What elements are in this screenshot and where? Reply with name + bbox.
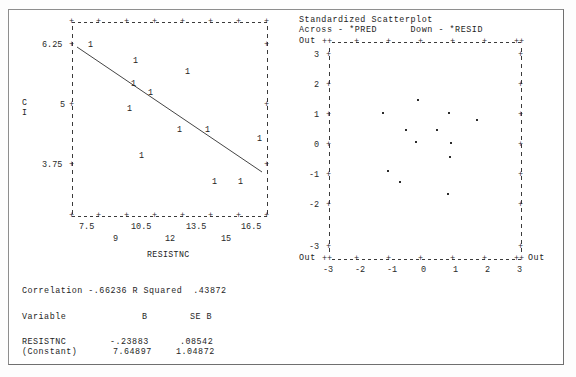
- right-plot-y-tick-label-1: 1: [314, 111, 319, 119]
- right-plot-bottom-tick-t2: +: [386, 255, 391, 263]
- right-plot-bottom-tick-t5: +: [482, 255, 487, 263]
- table-row: 7.64897: [113, 347, 152, 357]
- right-plot-x-tick-label-neg2: -2: [355, 266, 365, 274]
- left-scatterplot: + + + + + + + + + + + + + + + + 6.25 + 5…: [0, 0, 290, 270]
- table-header-variable: Variable: [22, 312, 66, 322]
- right-plot-bottom-tick-t1: +: [354, 255, 359, 263]
- residual-point: [382, 112, 384, 114]
- right-plot-y-tick-mark-3: +: [326, 51, 331, 59]
- right-plot-y-tick-label-3: 3: [314, 51, 319, 59]
- right-plot-bottom-axis: [332, 259, 521, 260]
- residual-point: [449, 156, 451, 158]
- right-plot-top-tick-t3: +: [418, 38, 423, 46]
- residual-point: [436, 129, 438, 131]
- residual-point: [387, 170, 389, 172]
- right-plot-y-tick-label-0: 0: [314, 141, 319, 149]
- right-plot-y-tick-right-3: +: [518, 51, 523, 59]
- correlation-line: Correlation -.66236 R Squared .43872: [22, 286, 226, 296]
- data-point-marker: 1: [185, 68, 190, 76]
- data-point-marker: 1: [139, 152, 144, 160]
- data-point-marker: 1: [257, 135, 262, 143]
- right-plot-top-axis: [332, 42, 521, 43]
- table-row: RESISTNC: [22, 337, 66, 347]
- residual-point: [405, 129, 407, 131]
- data-point-marker: 1: [212, 178, 217, 186]
- right-plot-y-tick-mark-neg1: +: [326, 171, 331, 179]
- right-plot-y-tick-label-neg3: -3: [309, 243, 319, 251]
- right-plot-top-tick-t2: +: [386, 38, 391, 46]
- right-plot-x-tick-label-neg1: -1: [387, 266, 397, 274]
- right-plot-top-tick-t4: +: [450, 38, 455, 46]
- right-plot-x-tick-label-neg3: -3: [323, 266, 333, 274]
- right-plot-y-tick-mark-0: +: [326, 141, 331, 149]
- right-plot-out-label-bottom-left: Out: [299, 254, 316, 264]
- right-plot-y-tick-right-neg2: +: [518, 201, 523, 209]
- right-plot-y-axis: [329, 48, 330, 252]
- right-plot-y-tick-label-neg2: -2: [309, 201, 319, 209]
- data-point-marker: 1: [133, 57, 138, 65]
- right-plot-x-tick-label-2: 2: [485, 266, 490, 274]
- data-point-marker: 1: [127, 105, 132, 113]
- table-row: (Constant): [22, 347, 77, 357]
- right-plot-y-tick-right-0: +: [518, 141, 523, 149]
- right-plot-y-tick-label-neg1: -1: [309, 171, 319, 179]
- right-plot-top-corner-tick-right: +: [519, 38, 524, 46]
- right-plot-y-tick-mark-2: +: [326, 81, 331, 89]
- data-point-marker: 1: [148, 89, 153, 97]
- data-point-marker: 1: [131, 80, 136, 88]
- right-plot-bottom-tick-t4: +: [450, 255, 455, 263]
- right-plot-top-tick-t5: +: [482, 38, 487, 46]
- right-plot-y-tick-right-1: +: [518, 111, 523, 119]
- table-row: -.23883: [110, 337, 149, 347]
- residual-point: [399, 181, 401, 183]
- right-plot-y-tick-mark-1: +: [326, 111, 331, 119]
- right-plot-bottom-tick-t3: +: [418, 255, 423, 263]
- data-point-marker: 1: [205, 126, 210, 134]
- right-plot-out-label-top: Out: [299, 37, 316, 47]
- regression-line: [0, 0, 290, 270]
- right-plot-y-tick-right-neg3: +: [518, 243, 523, 251]
- right-plot-x-tick-label-3: 3: [517, 266, 522, 274]
- residual-point: [476, 119, 478, 121]
- residual-point: [415, 141, 417, 143]
- spss-output-page: + + + + + + + + + + + + + + + + 6.25 + 5…: [0, 0, 576, 377]
- table-header-b: B: [142, 312, 148, 322]
- right-scatterplot: Standardized Scatterplot Across - *PRED …: [292, 0, 576, 300]
- residual-point: [447, 193, 449, 195]
- right-plot-y-tick-right-neg1: +: [518, 171, 523, 179]
- right-plot-x-tick-label-1: 1: [453, 266, 458, 274]
- residual-point: [448, 112, 450, 114]
- right-plot-y-tick-mark-neg3: +: [326, 243, 331, 251]
- right-plot-subtitle: Across - *PRED Down - *RESID: [299, 26, 483, 36]
- right-plot-y-tick-mark-neg2: +: [326, 201, 331, 209]
- right-plot-top-tick-t1: +: [354, 38, 359, 46]
- right-plot-out-label-bottom-right: Out: [528, 254, 545, 264]
- right-plot-x-tick-label-0: 0: [421, 266, 426, 274]
- data-point-marker: 1: [88, 41, 93, 49]
- right-plot-y-tick-label-2: 2: [314, 81, 319, 89]
- table-row: .08542: [180, 337, 213, 347]
- data-point-marker: 1: [238, 178, 243, 186]
- right-plot-right-axis: [521, 48, 522, 252]
- residual-point: [417, 99, 419, 101]
- residual-point: [450, 142, 452, 144]
- table-row: 1.04872: [176, 347, 215, 357]
- right-plot-bottom-corner-tick-right: +: [519, 255, 524, 263]
- data-point-marker: 1: [177, 126, 182, 134]
- right-plot-y-tick-right-2: +: [518, 81, 523, 89]
- table-header-se-b: SE B: [190, 312, 212, 322]
